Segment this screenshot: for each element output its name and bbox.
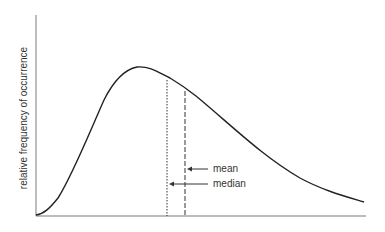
- mean-arrow: [187, 167, 208, 172]
- skewed-distribution-chart: relative frequency of occurrence mean me…: [0, 0, 385, 232]
- median-arrow: [169, 182, 208, 187]
- distribution-curve: [36, 67, 364, 215]
- median-label: median: [213, 178, 246, 189]
- y-axis-label: relative frequency of occurrence: [18, 46, 29, 189]
- mean-label: mean: [213, 163, 238, 174]
